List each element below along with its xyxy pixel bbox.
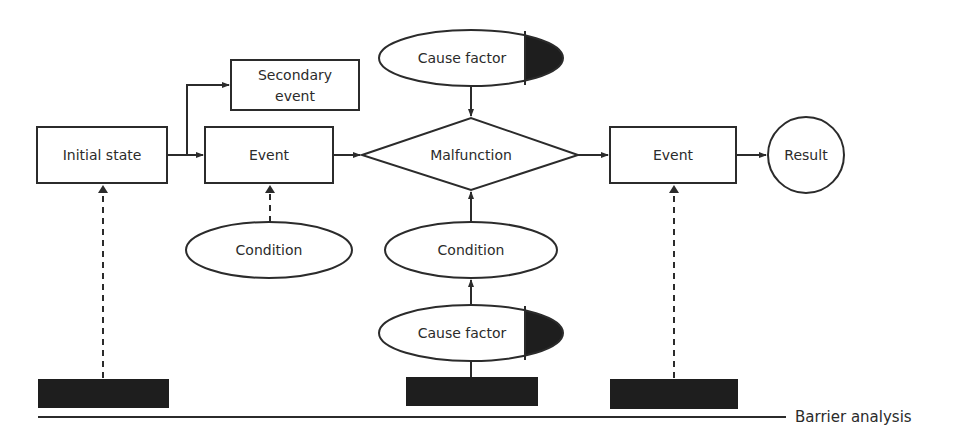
arrow-head-icon xyxy=(669,185,679,193)
arrow-head-icon xyxy=(265,185,275,193)
node-event-2: Event xyxy=(610,127,736,183)
node-malfunction: Malfunction xyxy=(362,118,578,190)
node-cause-factor-bottom: Cause factor xyxy=(379,303,565,365)
node-condition-2: Condition xyxy=(385,222,557,278)
barrier-1 xyxy=(38,379,169,408)
node-secondary-event: Secondary event xyxy=(231,60,359,110)
malfunction-label: Malfunction xyxy=(430,147,512,163)
condition-1-label: Condition xyxy=(236,242,303,258)
cause-factor-bottom-label: Cause factor xyxy=(418,325,507,341)
node-condition-1: Condition xyxy=(186,222,352,278)
condition-2-label: Condition xyxy=(438,242,505,258)
barrier-3 xyxy=(610,379,738,409)
node-result: Result xyxy=(768,117,844,193)
node-event-1: Event xyxy=(205,127,333,183)
secondary-event-label-2: event xyxy=(275,88,315,104)
node-cause-factor-top: Cause factor xyxy=(379,28,565,90)
initial-state-label: Initial state xyxy=(63,147,142,163)
barrier-analysis-diagram: Initial state Secondary event Event Caus… xyxy=(0,0,955,440)
event-2-label: Event xyxy=(653,147,694,163)
node-initial-state: Initial state xyxy=(37,127,167,183)
secondary-event-label-1: Secondary xyxy=(258,67,332,83)
result-label: Result xyxy=(784,147,828,163)
arrow-head-icon xyxy=(98,185,108,193)
barrier-analysis-label: Barrier analysis xyxy=(795,408,912,426)
cause-factor-top-label: Cause factor xyxy=(418,50,507,66)
barrier-2 xyxy=(406,377,538,406)
event-1-label: Event xyxy=(249,147,290,163)
